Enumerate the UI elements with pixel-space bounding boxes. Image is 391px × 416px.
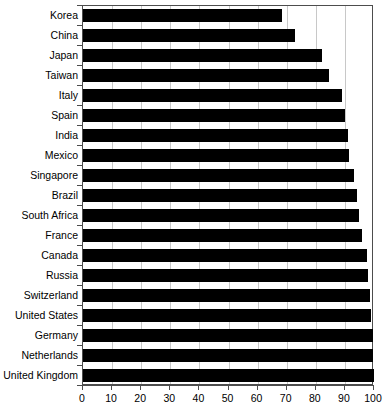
plot-area (82, 5, 373, 385)
bar-netherlands (83, 349, 373, 362)
y-axis-label-france: France (0, 225, 78, 245)
bar-south-africa (83, 209, 359, 222)
x-tick-50 (228, 385, 229, 390)
bar-united-states (83, 309, 371, 322)
x-tick-80 (315, 385, 316, 390)
x-tick-0 (82, 385, 83, 390)
x-axis-label-40: 40 (183, 392, 213, 404)
bar-row (83, 266, 372, 286)
bar-row (83, 106, 372, 126)
y-axis-label-united-kingdom: United Kingdom (0, 365, 78, 385)
x-axis-label-90: 90 (329, 392, 359, 404)
bar-india (83, 129, 348, 142)
y-axis-labels: KoreaChinaJapanTaiwanItalySpainIndiaMexi… (0, 5, 78, 385)
bar-switzerland (83, 289, 370, 302)
y-axis-label-switzerland: Switzerland (0, 285, 78, 305)
bar-united-kingdom (83, 369, 374, 382)
x-tick-40 (198, 385, 199, 390)
bar-row (83, 306, 372, 326)
y-axis-label-united-states: United States (0, 305, 78, 325)
x-axis-label-100: 100 (358, 392, 388, 404)
bar-italy (83, 89, 342, 102)
bar-row (83, 166, 372, 186)
bar-mexico (83, 149, 349, 162)
y-axis-label-india: India (0, 125, 78, 145)
x-tick-20 (140, 385, 141, 390)
x-axis-label-30: 30 (154, 392, 184, 404)
bar-france (83, 229, 362, 242)
x-axis-label-60: 60 (242, 392, 272, 404)
x-axis-label-50: 50 (213, 392, 243, 404)
bar-row (83, 366, 372, 386)
x-axis-label-70: 70 (271, 392, 301, 404)
y-axis-label-spain: Spain (0, 105, 78, 125)
bar-spain (83, 109, 345, 122)
y-axis-label-korea: Korea (0, 5, 78, 25)
y-axis-label-italy: Italy (0, 85, 78, 105)
x-tick-10 (111, 385, 112, 390)
x-axis-label-0: 0 (67, 392, 97, 404)
bar-brazil (83, 189, 357, 202)
x-axis-label-10: 10 (96, 392, 126, 404)
bar-japan (83, 49, 322, 62)
bar-row (83, 66, 372, 86)
bar-singapore (83, 169, 354, 182)
bar-russia (83, 269, 368, 282)
y-axis-label-south-africa: South Africa (0, 205, 78, 225)
bar-row (83, 286, 372, 306)
bar-taiwan (83, 69, 329, 82)
bar-row (83, 46, 372, 66)
bar-row (83, 86, 372, 106)
y-axis-label-germany: Germany (0, 325, 78, 345)
bar-row (83, 326, 372, 346)
x-axis-label-20: 20 (125, 392, 155, 404)
x-tick-60 (257, 385, 258, 390)
bars-layer (83, 6, 372, 384)
bar-row (83, 206, 372, 226)
bar-korea (83, 9, 282, 22)
y-axis-label-japan: Japan (0, 45, 78, 65)
y-axis-label-china: China (0, 25, 78, 45)
y-axis-label-netherlands: Netherlands (0, 345, 78, 365)
x-axis-label-80: 80 (300, 392, 330, 404)
bar-chart: KoreaChinaJapanTaiwanItalySpainIndiaMexi… (0, 0, 391, 416)
bar-germany (83, 329, 373, 342)
y-axis-label-brazil: Brazil (0, 185, 78, 205)
bar-china (83, 29, 295, 42)
x-tick-90 (344, 385, 345, 390)
y-axis-label-taiwan: Taiwan (0, 65, 78, 85)
y-axis-label-singapore: Singapore (0, 165, 78, 185)
x-tick-100 (373, 385, 374, 390)
y-axis-label-canada: Canada (0, 245, 78, 265)
y-axis-label-russia: Russia (0, 265, 78, 285)
x-tick-70 (286, 385, 287, 390)
y-axis-label-mexico: Mexico (0, 145, 78, 165)
bar-row (83, 126, 372, 146)
bar-row (83, 146, 372, 166)
bar-row (83, 26, 372, 46)
bar-row (83, 246, 372, 266)
bar-row (83, 186, 372, 206)
x-tick-30 (169, 385, 170, 390)
bar-canada (83, 249, 367, 262)
bar-row (83, 226, 372, 246)
bar-row (83, 6, 372, 26)
bar-row (83, 346, 372, 366)
